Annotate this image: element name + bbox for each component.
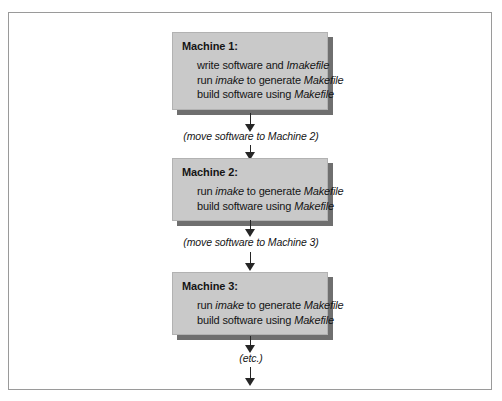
process-box-title: Machine 3: [173,279,327,293]
connector-label-3: (etc.) [0,352,502,364]
process-box-machine-1: Machine 1: write software and Imakefile … [172,32,328,110]
process-box-line: run imake to generate Makefile [197,298,327,313]
arrow-head-icon [245,263,255,271]
process-box-lines: run imake to generate Makefile build sof… [173,293,327,327]
process-box-line: write software and Imakefile [197,58,327,73]
process-box-line: build software using Makefile [197,313,327,328]
process-box-line: run imake to generate Makefile [197,184,327,199]
flow-container: Machine 1: write software and Imakefile … [0,0,502,401]
process-box-machine-3: Machine 3: run imake to generate Makefil… [172,272,328,335]
connector-label-1: (move software to Machine 2) [0,130,502,142]
process-box-lines: run imake to generate Makefile build sof… [173,179,327,213]
process-box-lines: write software and Imakefile run imake t… [173,53,327,102]
process-box-machine-2: Machine 2: run imake to generate Makefil… [172,158,328,221]
process-box-title: Machine 1: [173,39,327,53]
process-box-title: Machine 2: [173,165,327,179]
process-box-line: build software using Makefile [197,199,327,214]
arrow-head-icon [245,378,255,386]
connector-label-2: (move software to Machine 3) [0,236,502,248]
flowchart-figure: Machine 1: write software and Imakefile … [0,0,502,401]
process-box-line: run imake to generate Makefile [197,73,327,88]
process-box-line: build software using Makefile [197,87,327,102]
